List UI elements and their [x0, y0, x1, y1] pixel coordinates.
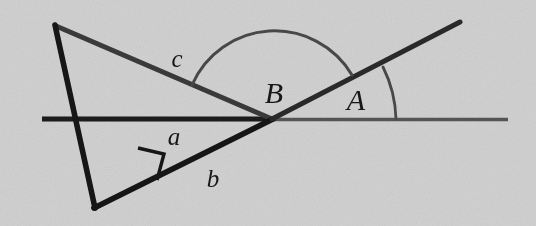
- geometry-figure: [0, 0, 536, 226]
- label-side-c: c: [171, 46, 182, 71]
- label-side-b: b: [207, 166, 220, 191]
- label-angle-A: A: [347, 85, 365, 115]
- label-side-a: a: [168, 124, 181, 149]
- label-angle-B: B: [265, 78, 283, 108]
- diagram-canvas: c a b B A: [0, 0, 536, 226]
